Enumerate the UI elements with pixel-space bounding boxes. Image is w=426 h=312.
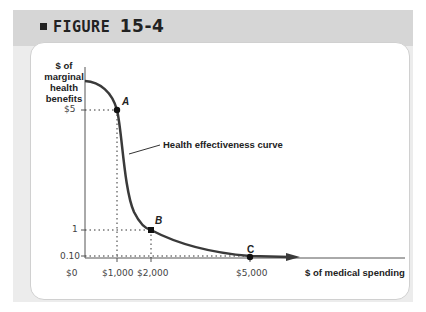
y-axis-label-line: benefits [42,93,86,104]
y-tick-label-010: 0.10 [60,251,80,261]
y-tick-label-5: $5 [64,104,75,114]
point-b [148,227,154,233]
x-tick-label-1000: $1,000 [102,268,134,278]
x-tick-label-0: $0 [66,268,77,278]
curve-leader-line [129,145,160,154]
point-b-label: B [155,215,162,226]
arrowhead-icon [286,253,300,261]
y-tick-label-1: 1 [72,224,78,234]
x-tick-label-2000: $2,000 [137,268,169,278]
guide-lines [85,110,250,258]
y-axis-label: $ of marginal health benefits [42,60,86,104]
x-tick-label-5000: $5,000 [236,268,268,278]
point-a-label: A [122,96,129,107]
point-a [114,107,120,113]
curve-label: Health effectiveness curve [163,139,283,150]
y-axis-label-line: $ of [42,60,86,71]
point-c-label: C [247,244,254,255]
chart-plot [0,0,426,312]
x-axis-label: $ of medical spending [305,267,405,278]
y-axis-label-line: marginal [42,71,86,82]
y-axis-label-line: health [42,82,86,93]
